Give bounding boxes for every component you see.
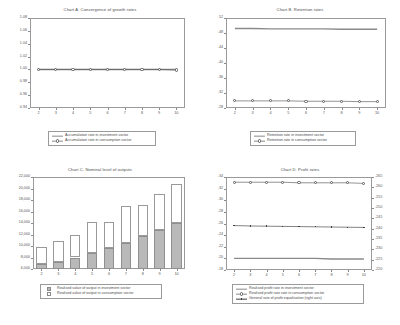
y-axis-tick [31, 212, 33, 213]
x-axis-tick-label: 6 [293, 274, 305, 278]
y-axis-tick [31, 235, 33, 236]
x-axis-tick-label: 2 [229, 112, 241, 116]
y-axis-tick [28, 18, 30, 19]
x-axis-tick [177, 269, 178, 271]
legend-item: General rate of profit equalisation (rig… [236, 297, 360, 302]
bar-segment-consumption [70, 235, 80, 257]
chart-panel-b: Chart B. Retention rates .52.48.44.40.36… [200, 0, 400, 162]
data-point-marker [304, 100, 307, 103]
x-axis-tick-label: 5 [277, 274, 289, 278]
data-point-dot [315, 226, 316, 227]
x-axis-tick-label: 3 [52, 273, 64, 277]
y-axis-right-tick-label: .220 [375, 268, 382, 272]
x-axis-tick [58, 269, 59, 271]
y-axis-tick-label: .52 [210, 16, 223, 20]
x-axis-tick [299, 270, 300, 272]
y-axis-tick [224, 224, 226, 225]
y-axis-tick-label: .30 [210, 198, 223, 202]
x-axis-tick-label: 4 [69, 273, 81, 277]
y-axis-tick-label: .32 [210, 187, 223, 191]
x-axis-tick-label: 4 [264, 112, 276, 116]
x-axis-tick-label: 3 [50, 112, 62, 116]
y-axis-tick [372, 187, 374, 188]
x-axis-tick [142, 108, 143, 110]
x-axis-tick [364, 270, 365, 272]
bar-segment-consumption [154, 194, 164, 230]
y-axis-tick [372, 208, 374, 209]
chart-a-plot-area [30, 18, 185, 108]
x-axis-tick-label: 4 [261, 274, 273, 278]
x-axis-tick [253, 108, 254, 110]
y-axis-tick [28, 108, 30, 109]
legend-item: Accumulation rate in consumption sector [52, 139, 152, 144]
y-axis-tick [224, 93, 226, 94]
data-point-marker [175, 68, 178, 71]
bar-segment-consumption [104, 222, 114, 248]
x-axis-tick [306, 108, 307, 110]
x-axis-tick-label: 2 [33, 112, 45, 116]
y-axis-right-tick-label: .255 [375, 196, 382, 200]
y-axis-tick-label: .36 [210, 76, 223, 80]
data-point-marker [158, 68, 161, 71]
x-axis-tick [234, 270, 235, 272]
y-axis-tick [28, 31, 30, 32]
y-axis-right-tick-label: .225 [375, 258, 382, 262]
x-axis-tick [342, 108, 343, 110]
bar-segment-investment [154, 230, 164, 269]
data-point-dot [298, 226, 299, 227]
y-axis-right-tick-label: .240 [375, 227, 382, 231]
x-axis-tick-label: 8 [137, 273, 149, 277]
y-axis-tick [224, 177, 226, 178]
y-axis-tick [372, 260, 374, 261]
x-axis-tick [331, 270, 332, 272]
y-axis-tick-label: 16,000 [17, 210, 30, 214]
y-axis-tick [224, 189, 226, 190]
legend-key-icon [236, 297, 247, 302]
y-axis-tick [372, 249, 374, 250]
x-axis-tick [73, 108, 74, 110]
y-axis-tick [224, 33, 226, 34]
y-axis-tick-label: .40 [210, 61, 223, 65]
x-axis-tick [160, 269, 161, 271]
legend-label: Accumulation rate in consumption sector [65, 139, 131, 143]
y-axis-tick-label: .34 [210, 175, 223, 179]
x-axis-tick-label: 2 [228, 274, 240, 278]
data-point-dot [266, 225, 267, 226]
y-axis-tick [224, 63, 226, 64]
x-axis-tick [92, 269, 93, 271]
bar-segment-consumption [36, 247, 46, 264]
x-axis-tick-label: 5 [84, 112, 96, 116]
chart-panel-a: Chart A. Convergence of growth rates 1.0… [0, 0, 200, 162]
legend-label: Realised value of output in consumption … [57, 292, 133, 296]
y-axis-tick-label: 1.00 [14, 67, 27, 71]
y-axis-right-tick-label: .265 [375, 175, 382, 179]
y-axis-tick-label: 14,000 [17, 221, 30, 225]
y-axis-tick [224, 212, 226, 213]
x-axis-tick-label: 8 [336, 112, 348, 116]
bar-segment-investment [104, 248, 114, 269]
figure-sheet: Chart A. Convergence of growth rates 1.0… [0, 0, 400, 325]
x-axis-tick [267, 270, 268, 272]
bar-segment-investment [87, 253, 97, 269]
bar-segment-consumption [53, 241, 63, 261]
x-axis-tick [159, 108, 160, 110]
y-axis-tick-label: .18 [210, 268, 223, 272]
chart-b-title: Chart B. Retention rates [200, 7, 400, 12]
x-axis-tick [108, 108, 109, 110]
x-axis-tick-label: 10 [170, 112, 182, 116]
x-axis-tick [90, 108, 91, 110]
y-axis-tick-label: .28 [210, 106, 223, 110]
x-axis-tick [324, 108, 325, 110]
x-axis-tick [377, 108, 378, 110]
y-axis-tick [31, 258, 33, 259]
bar-segment-investment [121, 243, 131, 269]
x-axis-tick [288, 108, 289, 110]
x-axis-tick-label: 10 [171, 273, 183, 277]
chart-a-legend: Accumulation rate in investment sectorAc… [48, 131, 156, 146]
x-axis-tick [56, 108, 57, 110]
data-point-dot [331, 226, 332, 227]
chart-panel-c: Chart C. Nominal level of outputs 22,000… [0, 160, 200, 322]
x-axis-tick-label: 7 [120, 273, 132, 277]
y-axis-tick [372, 239, 374, 240]
x-axis-tick-label: 7 [119, 112, 131, 116]
